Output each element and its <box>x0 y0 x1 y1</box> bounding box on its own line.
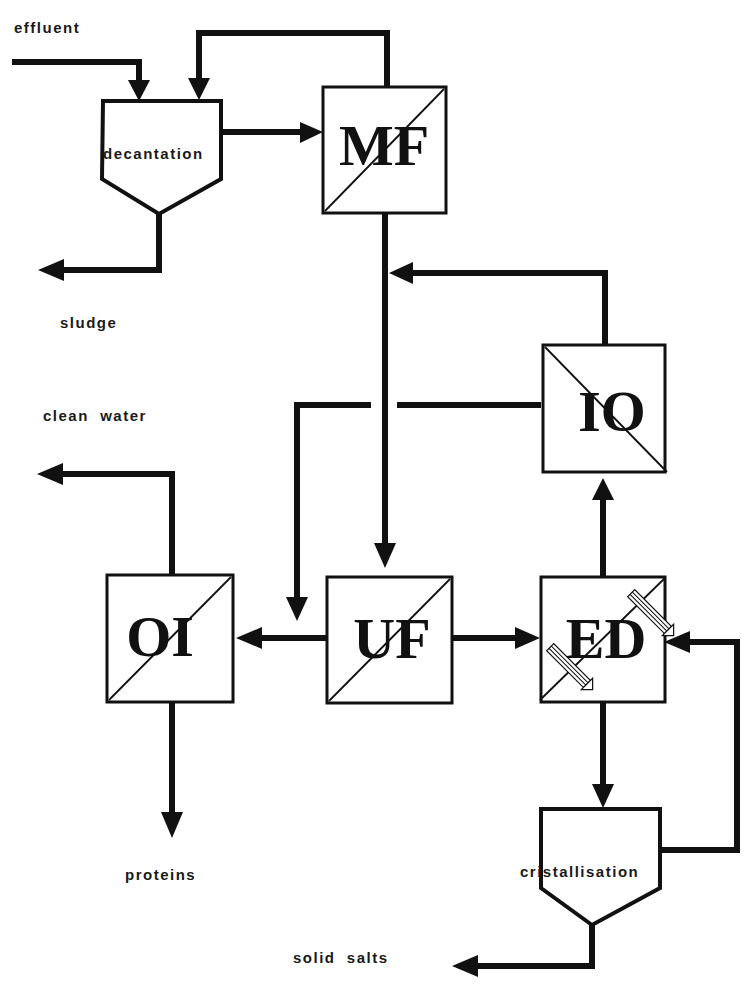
unit-label: cristallisation <box>520 863 639 880</box>
unit-uf: UF <box>327 577 452 703</box>
arrow-down-icon <box>188 78 210 100</box>
pipe-sludge <box>62 214 159 270</box>
unit-label: MF <box>339 113 429 178</box>
unit-label: ED <box>566 606 647 671</box>
label-effluent: effluent <box>14 19 80 36</box>
pipe-solid-salts <box>477 925 592 966</box>
arrow-left-icon <box>452 955 478 977</box>
arrow-down-icon <box>161 812 183 838</box>
unit-label: decantation <box>103 145 204 162</box>
pipe-oi-top-to-line <box>410 273 605 345</box>
arrow-down-icon <box>592 784 614 808</box>
unit-oi-left: OI <box>107 575 233 702</box>
arrow-right-icon <box>515 627 540 649</box>
arrow-down-icon <box>128 80 150 101</box>
arrow-left-icon <box>38 259 64 281</box>
arrow-left-icon <box>389 262 413 284</box>
pipe-crist-recycle <box>660 642 737 850</box>
unit-decantation: decantation <box>102 101 221 214</box>
unit-label: OI <box>126 604 194 669</box>
label-solid-salts: solid salts <box>293 949 389 966</box>
unit-oi-top: OI <box>543 345 667 472</box>
arrow-left-icon <box>236 627 262 649</box>
label-sludge: sludge <box>60 314 117 331</box>
arrow-down-icon <box>286 597 308 621</box>
arrow-down-icon <box>374 543 396 568</box>
pipe-oi-top-to-left-b <box>297 405 371 602</box>
arrow-left-icon <box>37 463 63 485</box>
arrow-up-icon <box>592 478 614 500</box>
pipe-clean-water <box>60 474 172 575</box>
label-proteins: proteins <box>125 866 196 883</box>
unit-label: UF <box>353 606 430 671</box>
label-clean-water: clean water <box>43 407 147 424</box>
unit-cristallisation: cristallisation <box>520 809 660 925</box>
unit-mf: MF <box>323 87 446 213</box>
pipe-mf-recycle <box>199 33 387 86</box>
unit-ed: ED <box>540 577 679 702</box>
arrow-right-icon <box>300 122 323 143</box>
unit-label: OI <box>578 380 646 445</box>
process-flow-diagram: effluent sludge clean water proteins sol… <box>0 0 756 995</box>
pipe-effluent <box>12 62 139 85</box>
